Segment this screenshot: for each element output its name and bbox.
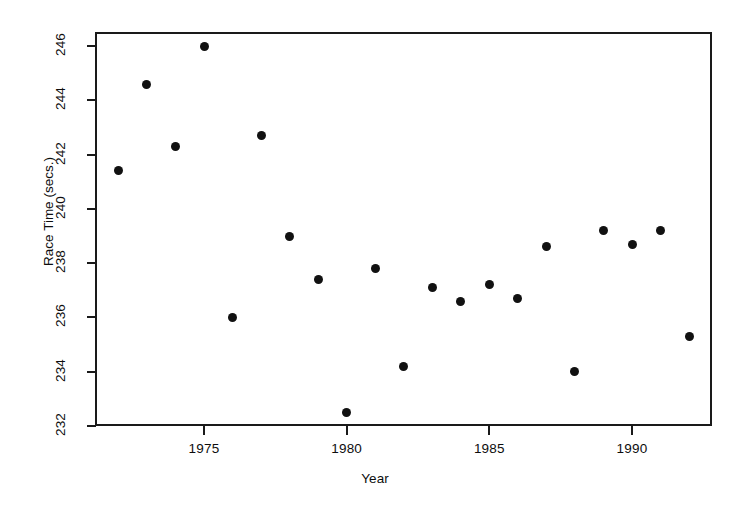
x-axis-tick-label: 1985	[459, 441, 519, 456]
y-axis-tick-label: 232	[53, 403, 68, 447]
plot-area-frame	[95, 32, 712, 426]
x-axis-tick-label: 1990	[602, 441, 662, 456]
y-axis-tick-label: 234	[53, 348, 68, 392]
x-axis-tick	[346, 426, 348, 435]
y-axis-tick	[87, 208, 96, 210]
y-axis-tick	[87, 45, 96, 47]
x-axis-tick-label: 1975	[174, 441, 234, 456]
x-axis-tick	[631, 426, 633, 435]
x-axis-tick	[488, 426, 490, 435]
y-axis-tick	[87, 262, 96, 264]
y-axis-tick	[87, 425, 96, 427]
y-axis-tick-label-wrap: 234	[38, 363, 82, 381]
y-axis-title: Race Time (secs.)	[41, 102, 56, 322]
y-axis-tick	[87, 371, 96, 373]
y-axis-tick-label-wrap: 246	[38, 37, 82, 55]
chart-page: 2322342362382402422442461975198019851990…	[0, 0, 750, 515]
y-axis-tick	[87, 154, 96, 156]
y-axis-tick	[87, 316, 96, 318]
x-axis-title: Year	[0, 471, 750, 486]
y-axis-tick-label-wrap: 232	[38, 417, 82, 435]
y-axis-tick-label: 246	[53, 23, 68, 67]
x-axis-tick	[203, 426, 205, 435]
x-axis-tick-label: 1980	[317, 441, 377, 456]
y-axis-tick	[87, 99, 96, 101]
